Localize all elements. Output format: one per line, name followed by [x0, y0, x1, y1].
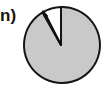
figure-root: n) — [0, 0, 106, 92]
pie-chart-svg — [0, 0, 106, 92]
